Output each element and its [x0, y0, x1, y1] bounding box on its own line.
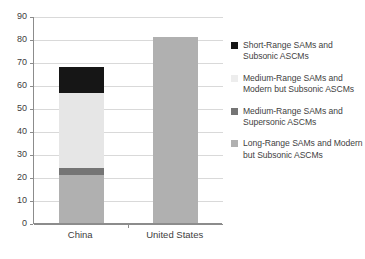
- bar-segment[interactable]: [153, 37, 198, 223]
- bar-segment[interactable]: [59, 175, 104, 223]
- legend-swatch-icon: [231, 75, 238, 82]
- y-tick-label: 10: [0, 196, 27, 205]
- plot-inner: [34, 17, 222, 223]
- bar-segment[interactable]: [59, 168, 104, 175]
- plot-area: [33, 17, 222, 224]
- legend-item[interactable]: Short-Range SAMs and Subsonic ASCMs: [231, 40, 363, 63]
- legend-label: Medium-Range SAMs and Modern but Subsoni…: [243, 73, 363, 96]
- legend-swatch-icon: [231, 108, 238, 115]
- bar-segment[interactable]: [59, 67, 104, 93]
- legend-swatch-icon: [231, 42, 238, 49]
- legend-item[interactable]: Long-Range SAMs and Modern but Subsonic …: [231, 138, 363, 161]
- legend-label: Short-Range SAMs and Subsonic ASCMs: [243, 40, 363, 63]
- y-tick-label: 50: [0, 104, 27, 113]
- y-tick-label: 60: [0, 81, 27, 90]
- legend-item[interactable]: Medium-Range SAMs and Modern but Subsoni…: [231, 73, 363, 96]
- y-tick-label: 40: [0, 127, 27, 136]
- bar-column[interactable]: [153, 16, 198, 223]
- x-tick-label: China: [33, 229, 128, 240]
- y-tick-label: 90: [0, 12, 27, 21]
- chart-legend: Short-Range SAMs and Subsonic ASCMsMediu…: [231, 40, 363, 171]
- legend-label: Medium-Range SAMs and Supersonic ASCMs: [243, 106, 363, 129]
- stacked-bar-chart: 0102030405060708090 ChinaUnited States S…: [0, 0, 365, 259]
- y-tick-label: 30: [0, 150, 27, 159]
- legend-label: Long-Range SAMs and Modern but Subsonic …: [243, 138, 363, 161]
- x-tick-label: United States: [128, 229, 223, 240]
- y-tick-label: 20: [0, 173, 27, 182]
- gridline-0: [34, 224, 223, 225]
- y-tick-label: 0: [0, 219, 27, 228]
- legend-item[interactable]: Medium-Range SAMs and Supersonic ASCMs: [231, 106, 363, 129]
- x-tick-mark: [128, 224, 129, 228]
- y-tick-mark: [30, 224, 33, 225]
- y-tick-label: 80: [0, 35, 27, 44]
- bar-column[interactable]: [59, 16, 104, 223]
- legend-swatch-icon: [231, 140, 238, 147]
- bar-segment[interactable]: [59, 93, 104, 168]
- y-tick-label: 70: [0, 58, 27, 67]
